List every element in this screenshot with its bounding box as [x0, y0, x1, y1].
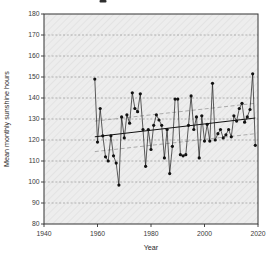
- x-tick-label: 1940: [36, 230, 51, 237]
- data-point: [240, 102, 243, 105]
- data-point: [222, 136, 225, 139]
- data-point: [152, 124, 155, 127]
- y-tick-label: 140: [28, 94, 40, 101]
- data-point: [219, 128, 222, 131]
- y-tick-label: 160: [28, 52, 40, 59]
- y-axis-title: Mean monthly sunshine hours: [2, 71, 11, 167]
- data-point: [171, 145, 174, 148]
- data-point: [93, 78, 96, 81]
- data-point: [227, 128, 230, 131]
- data-point: [115, 162, 118, 165]
- data-point: [101, 134, 104, 137]
- data-point: [235, 120, 238, 123]
- data-point: [104, 155, 107, 158]
- data-point: [206, 123, 209, 126]
- data-point: [246, 115, 249, 118]
- data-point: [160, 124, 163, 127]
- data-point: [251, 72, 254, 75]
- data-point: [192, 128, 195, 131]
- data-point: [243, 121, 246, 124]
- x-tick-label: 2020: [250, 230, 265, 237]
- data-point: [163, 156, 166, 159]
- data-point: [149, 148, 152, 151]
- data-point: [117, 184, 120, 187]
- x-tick-label: 1960: [90, 230, 105, 237]
- data-point: [232, 114, 235, 117]
- data-point: [216, 132, 219, 135]
- data-point: [136, 110, 139, 113]
- data-point: [131, 91, 134, 94]
- chart-figure: 8090100110120130140150160170180 19401960…: [0, 0, 274, 263]
- data-point: [176, 98, 179, 101]
- data-point: [230, 135, 233, 138]
- data-point: [141, 128, 144, 131]
- data-point: [99, 107, 102, 110]
- data-point: [157, 118, 160, 121]
- data-point: [254, 144, 257, 147]
- y-tick-label: 90: [32, 199, 40, 206]
- sunshine-time-series-chart: 8090100110120130140150160170180 19401960…: [0, 0, 274, 263]
- data-point: [211, 82, 214, 85]
- data-point: [125, 113, 128, 116]
- y-tick-label: 150: [28, 73, 40, 80]
- data-point: [168, 172, 171, 175]
- data-point: [133, 107, 136, 110]
- data-point: [147, 128, 150, 131]
- data-point: [123, 136, 126, 139]
- data-point: [224, 133, 227, 136]
- data-point: [109, 134, 112, 137]
- data-point: [139, 92, 142, 95]
- data-point: [214, 138, 217, 141]
- y-axis-ticks: 8090100110120130140150160170180: [28, 10, 44, 227]
- data-point: [184, 153, 187, 156]
- y-tick-label: 170: [28, 31, 40, 38]
- y-tick-label: 100: [28, 178, 40, 185]
- x-axis-ticks: 19401960198020002020: [36, 224, 265, 237]
- data-point: [238, 107, 241, 110]
- x-axis-title: Year: [144, 243, 159, 252]
- data-point: [166, 128, 169, 131]
- clipped-title-remnant: [100, 0, 107, 2]
- data-point: [120, 115, 123, 118]
- data-point: [195, 115, 198, 118]
- data-point: [155, 113, 158, 116]
- y-tick-label: 80: [32, 220, 40, 227]
- x-tick-label: 1980: [143, 230, 158, 237]
- data-point: [96, 141, 99, 144]
- y-tick-label: 110: [29, 157, 40, 164]
- data-point: [128, 122, 131, 125]
- data-point: [203, 140, 206, 143]
- data-point: [208, 140, 211, 143]
- x-tick-label: 2000: [197, 230, 212, 237]
- y-tick-label: 180: [28, 10, 40, 17]
- data-point: [107, 159, 110, 162]
- data-point: [248, 108, 251, 111]
- data-point: [190, 94, 193, 97]
- data-point: [144, 165, 147, 168]
- data-point: [112, 154, 115, 157]
- data-point: [187, 124, 190, 127]
- y-tick-label: 130: [28, 115, 40, 122]
- y-tick-label: 120: [28, 136, 40, 143]
- data-point: [198, 156, 201, 159]
- data-point: [200, 114, 203, 117]
